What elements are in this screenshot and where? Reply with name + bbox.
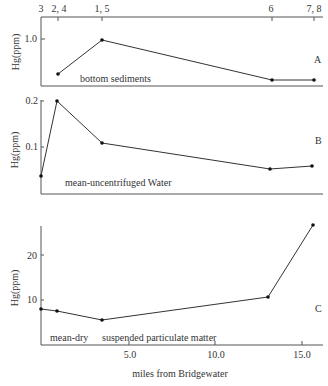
panel-a: 1.0 Hg(ppm) bottom sediments A	[10, 17, 323, 86]
panel-caption: bottom sediments	[80, 73, 151, 84]
station-label: 3	[39, 3, 44, 14]
station-label: 2, 4	[52, 3, 67, 14]
x-tick-label: 15.0	[293, 349, 311, 360]
series-line	[41, 101, 312, 176]
panel-caption-left: mean-dry	[50, 332, 88, 343]
station-label: 1, 5	[95, 3, 110, 14]
x-axis-label: miles from Bridgewater	[132, 368, 228, 379]
top-station-axis: 3 2, 4 1, 5 6 7, 8	[39, 3, 324, 21]
y-tick-label: 0.2	[26, 95, 39, 106]
y-tick-label: 1.0	[25, 33, 38, 44]
y-axis-label: Hg(ppm)	[10, 34, 22, 71]
x-tick-label: 5.0	[124, 349, 137, 360]
station-label: 7, 8	[307, 3, 322, 14]
y-axis-label: Hg(ppm)	[9, 270, 21, 307]
panel-letter: A	[314, 54, 322, 65]
x-tick-label: 10.0	[207, 349, 225, 360]
panel-c: 20 10 Hg(ppm) 5.0 10.0 15.0 mean-dry sus…	[9, 223, 323, 379]
y-tick-label: 20	[27, 250, 37, 261]
y-tick-label: 0.1	[26, 141, 39, 152]
panel-b: 0.2 0.1 Hg(ppm) mean-uncentrifuged Water…	[9, 95, 323, 194]
panel-letter: B	[315, 135, 322, 146]
panel-caption-right: suspended particulate matter	[102, 332, 217, 343]
panel-letter: C	[315, 303, 322, 314]
panel-caption: mean-uncentrifuged Water	[65, 177, 172, 188]
station-label: 6	[269, 3, 274, 14]
hg-chart-figure: 3 2, 4 1, 5 6 7, 8 1.0 Hg(ppm) bottom se…	[0, 0, 328, 386]
series-line	[41, 225, 313, 320]
y-axis-label: Hg(ppm)	[9, 132, 21, 169]
data-points	[39, 99, 314, 178]
data-points	[39, 223, 315, 322]
y-tick-label: 10	[27, 294, 37, 305]
